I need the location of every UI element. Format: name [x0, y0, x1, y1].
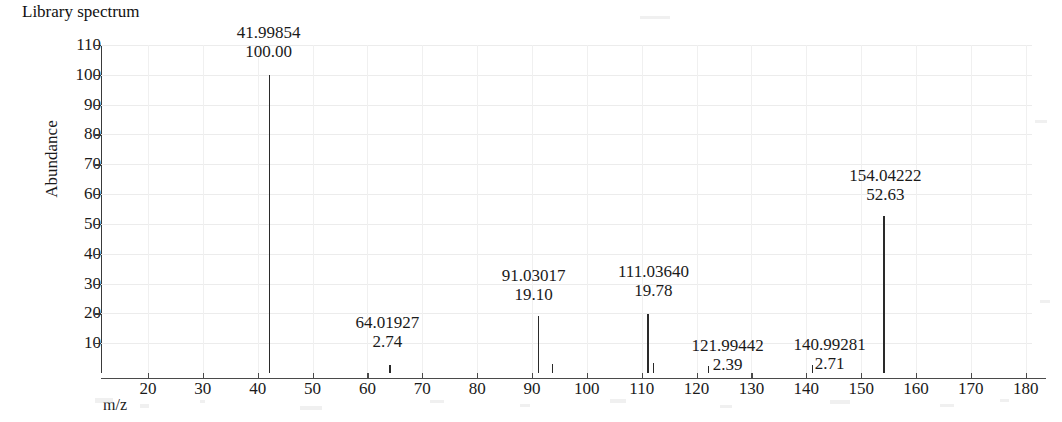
peak-mz-value: 41.99854: [237, 23, 301, 42]
x-tick-label: 120: [684, 380, 710, 398]
spectrum-peak: [883, 216, 885, 373]
paper-speck: [300, 406, 322, 410]
peak-label: 154.0422252.63: [849, 166, 921, 204]
spectrum-peak: [647, 314, 649, 373]
peak-label: 91.0301719.10: [502, 266, 566, 304]
gridline-vertical: [313, 45, 314, 373]
paper-speck: [95, 398, 113, 403]
peak-mz-value: 91.03017: [502, 266, 566, 285]
peak-label: 41.99854100.00: [237, 23, 301, 61]
peak-mz-value: 140.99281: [794, 335, 866, 354]
peak-mz-value: 64.01927: [356, 313, 420, 332]
paper-speck: [200, 400, 205, 403]
gridline-vertical: [1026, 45, 1027, 373]
gridline-vertical: [971, 45, 972, 373]
x-tick-label: 170: [958, 380, 984, 398]
x-tick-label: 90: [524, 380, 541, 398]
x-tick-label: 130: [739, 380, 765, 398]
spectrum-peak: [389, 365, 391, 373]
x-tick-label: 140: [794, 380, 820, 398]
peak-mz-value: 111.03640: [618, 262, 689, 281]
paper-speck: [720, 405, 732, 408]
x-tick-label: 160: [903, 380, 929, 398]
peak-abundance-value: 2.39: [691, 355, 763, 374]
gridline-horizontal: [101, 254, 1032, 255]
paper-speck: [140, 404, 149, 408]
spectrum-peak: [269, 75, 271, 373]
peak-abundance-value: 19.10: [502, 285, 566, 304]
gridline-vertical: [203, 45, 204, 373]
x-tick-label: 100: [574, 380, 600, 398]
gridline-vertical: [477, 45, 478, 373]
peak-abundance-value: 2.71: [794, 354, 866, 373]
gridline-vertical: [148, 45, 149, 373]
peak-mz-value: 154.04222: [849, 166, 921, 185]
gridline-horizontal: [101, 224, 1032, 225]
x-tick-label: 20: [140, 380, 157, 398]
x-tick-label: 60: [359, 380, 376, 398]
gridline-horizontal: [101, 75, 1032, 76]
paper-speck: [520, 404, 530, 407]
gridline-vertical: [422, 45, 423, 373]
paper-speck: [1000, 399, 1009, 402]
x-tick-label: 30: [194, 380, 211, 398]
gridline-horizontal: [101, 134, 1032, 135]
gridline-vertical: [587, 45, 588, 373]
x-tick-label: 50: [304, 380, 321, 398]
x-tick-label: 180: [1013, 380, 1039, 398]
gridline-vertical: [258, 45, 259, 373]
peak-abundance-value: 52.63: [849, 185, 921, 204]
gridline-horizontal: [101, 343, 1032, 344]
x-tick-label: 40: [249, 380, 266, 398]
x-tick-label: 110: [629, 380, 654, 398]
peak-abundance-value: 2.74: [356, 332, 420, 351]
x-tick-label: 150: [848, 380, 874, 398]
paper-speck: [430, 400, 444, 403]
plot-area: [101, 45, 1032, 373]
paper-speck: [1035, 120, 1047, 123]
gridline-vertical: [751, 45, 752, 373]
paper-speck: [830, 400, 850, 404]
peak-label: 111.0364019.78: [618, 262, 689, 300]
gridline-vertical: [861, 45, 862, 373]
gridline-horizontal: [101, 105, 1032, 106]
peak-label: 64.019272.74: [356, 313, 420, 351]
spectrum-peak: [538, 316, 540, 373]
plot-frame: [101, 45, 1032, 373]
gridline-vertical: [916, 45, 917, 373]
peak-label: 121.994422.39: [691, 336, 763, 374]
gridline-vertical: [697, 45, 698, 373]
peak-label: 140.992812.71: [794, 335, 866, 373]
paper-speck: [610, 399, 626, 403]
spectrum-peak: [552, 364, 554, 373]
paper-speck: [640, 16, 670, 19]
gridline-horizontal: [101, 284, 1032, 285]
paper-speck: [940, 404, 954, 407]
peak-mz-value: 121.99442: [691, 336, 763, 355]
y-axis-tick-group: 110100908070605040302010: [0, 0, 101, 422]
spectrum-peak: [653, 363, 655, 373]
gridline-vertical: [642, 45, 643, 373]
gridline-vertical: [806, 45, 807, 373]
mass-spectrum-figure: Library spectrum Abundance m/z 110100908…: [0, 0, 1062, 422]
x-tick-label: 70: [414, 380, 431, 398]
peak-abundance-value: 100.00: [237, 42, 301, 61]
gridline-vertical: [532, 45, 533, 373]
gridline-horizontal: [101, 313, 1032, 314]
peak-abundance-value: 19.78: [618, 281, 689, 300]
x-tick-label: 80: [469, 380, 486, 398]
paper-speck: [1040, 300, 1050, 303]
